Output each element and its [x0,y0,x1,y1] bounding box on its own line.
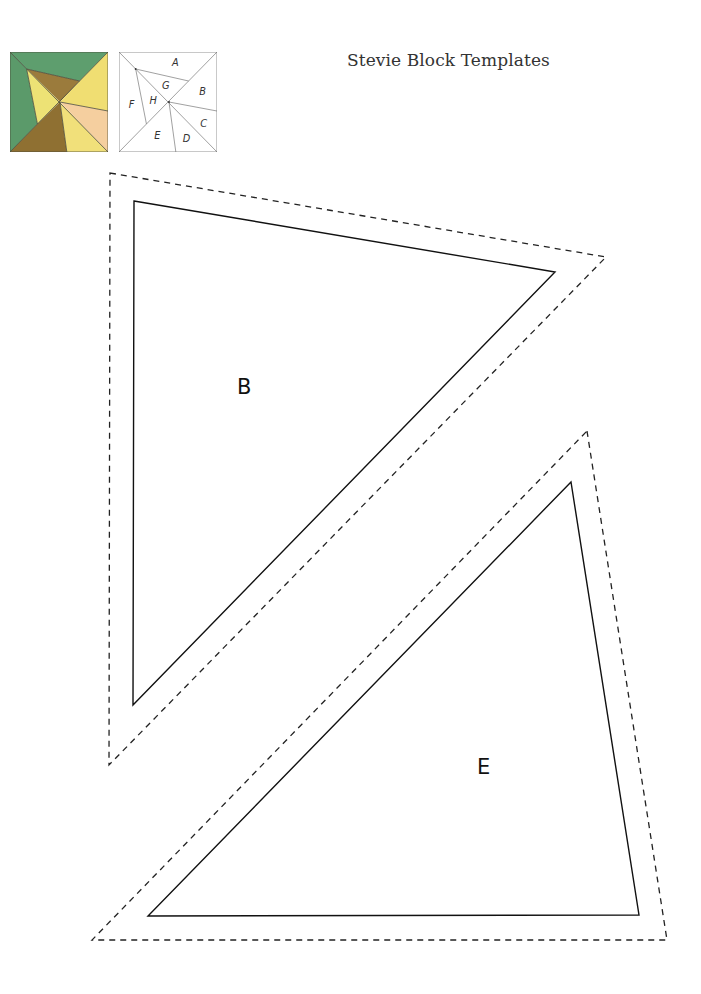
template-e-cut-line [92,431,667,940]
template-e-label: E [477,757,490,778]
template-e [92,431,667,940]
template-b [109,173,606,765]
template-e-sew-line [148,482,639,916]
template-b-cut-line [109,173,606,765]
template-b-label: B [237,377,251,398]
template-b-sew-line [133,201,555,705]
templates-canvas [0,0,701,994]
